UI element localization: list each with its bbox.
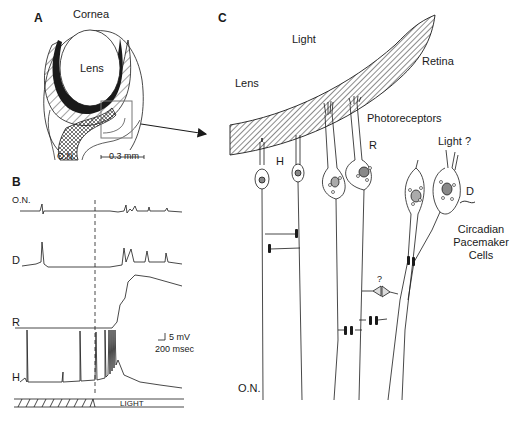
scale-time: 200 msec xyxy=(155,345,194,354)
stimulus-label: LIGHT xyxy=(120,400,144,408)
trace-d xyxy=(22,242,182,267)
label-d-cell: D xyxy=(466,186,474,197)
trace-h xyxy=(20,330,182,388)
label-optic-nerve-a: O.N. xyxy=(57,152,76,161)
panel-letter-a: A xyxy=(34,12,43,24)
scale-voltage: 5 mV xyxy=(169,333,190,342)
trace-label-r: R xyxy=(12,317,20,328)
eye-cross-section xyxy=(44,30,206,160)
label-circadian-pacemaker-cells: Circadian Pacemaker Cells xyxy=(446,223,513,262)
trace-label-h: H xyxy=(12,372,20,383)
label-cornea: Cornea xyxy=(73,9,109,20)
circadian-line-1: Circadian xyxy=(446,223,513,236)
trace-on xyxy=(20,204,182,214)
trace-label-d: D xyxy=(12,255,20,266)
label-photoreceptors: Photoreceptors xyxy=(367,113,442,124)
label-r-cell: R xyxy=(369,140,377,151)
label-light-question: Light ? xyxy=(438,136,471,147)
panel-letter-b: B xyxy=(12,176,21,188)
label-retina: Retina xyxy=(422,56,454,67)
label-scale-bar-a: 0.3 mm xyxy=(109,152,139,161)
circadian-line-3: Cells xyxy=(446,249,513,262)
label-h-cell: H xyxy=(276,156,284,167)
panel-letter-c: C xyxy=(218,12,227,24)
retina-schematic xyxy=(230,15,475,400)
trace-r xyxy=(15,275,182,328)
trace-label-on: O.N. xyxy=(12,196,31,205)
recording-traces xyxy=(14,200,184,407)
label-lens-a: Lens xyxy=(80,63,104,74)
circadian-line-2: Pacemaker xyxy=(446,236,513,249)
label-lens-c: Lens xyxy=(235,78,259,89)
label-optic-nerve-c: O.N. xyxy=(238,383,261,394)
label-unknown-synapse: ? xyxy=(377,275,382,284)
label-light: Light xyxy=(292,34,316,45)
